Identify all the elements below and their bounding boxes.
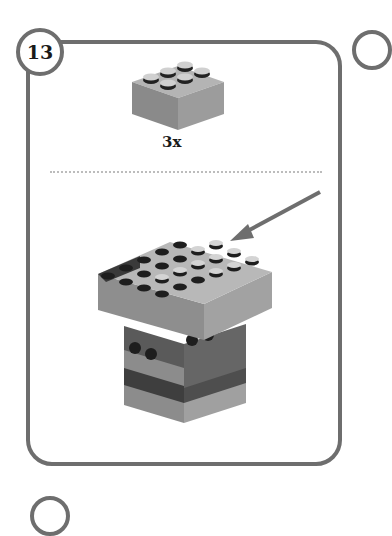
step-number: 13 [27, 41, 53, 63]
next-step-badge-bottom [30, 496, 70, 536]
brick-2x3-icon [128, 52, 228, 132]
step-number-badge: 13 [16, 28, 64, 76]
assembly-model-illustration [80, 228, 280, 428]
next-step-badge-right [352, 30, 392, 70]
dotted-divider [50, 171, 322, 173]
quantity-label: 3x [162, 133, 181, 151]
